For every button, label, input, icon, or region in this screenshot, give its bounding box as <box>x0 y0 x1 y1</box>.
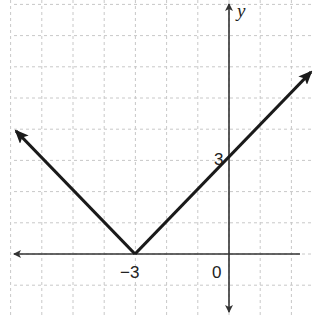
function-curve <box>16 72 311 254</box>
origin-label: 0 <box>212 263 221 282</box>
grid-lines <box>11 0 313 315</box>
y-axis-label: y <box>235 0 246 21</box>
absolute-value-graph: y 3 −3 0 <box>0 0 313 315</box>
vertex-x-label: −3 <box>120 263 139 282</box>
y-intercept-label: 3 <box>214 150 223 169</box>
